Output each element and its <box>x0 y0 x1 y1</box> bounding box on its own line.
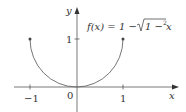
x-tick-label-1: 1 <box>120 93 126 104</box>
function-label-lhs: f(x) = 1 − <box>86 21 137 32</box>
origin-label: 0 <box>67 90 73 101</box>
endpoint-left <box>29 38 32 41</box>
x-axis-label: x <box>169 90 175 101</box>
x-tick-label-neg1: −1 <box>24 93 39 104</box>
function-label-radicand: 1 − x <box>145 21 172 32</box>
y-tick-label-1: 1 <box>66 34 72 45</box>
function-label-exponent: 2 <box>163 19 167 26</box>
function-graph: −1 0 1 1 x y f(x) = 1 − 1 − x 2 <box>0 0 186 112</box>
y-axis-arrow-icon <box>75 7 80 14</box>
function-curve <box>30 39 123 87</box>
endpoint-right <box>122 38 125 41</box>
x-axis-arrow-icon <box>172 85 179 90</box>
function-label: f(x) = 1 − 1 − x 2 <box>86 19 172 32</box>
y-axis-label: y <box>65 5 72 16</box>
